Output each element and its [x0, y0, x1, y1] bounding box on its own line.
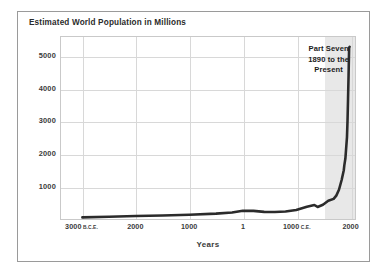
x-tick-era-suffix: B.C.E. — [81, 225, 97, 230]
annotation-line-3: Present — [308, 65, 349, 76]
x-axis-tick-label: 2000 — [127, 222, 143, 231]
x-tick-value: 1 — [241, 222, 245, 231]
x-axis-tick-label: 1 — [241, 222, 245, 231]
x-tick-value: 1000 — [283, 222, 299, 231]
chart-figure: Estimated World Population in Millions 1… — [0, 0, 392, 277]
x-tick-value: 2000 — [127, 222, 143, 231]
y-axis-tick-label: 5000 — [39, 51, 56, 60]
x-axis-tick-labels: 3000 B.C.E.2000100011000 C.E.2000 — [60, 222, 356, 236]
era-annotation: Part Seven 1890 to the Present — [308, 44, 349, 76]
plot-area: Part Seven 1890 to the Present — [60, 36, 356, 220]
x-tick-value: 3000 — [65, 222, 81, 231]
x-tick-value: 2000 — [342, 222, 358, 231]
x-axis-tick-label: 2000 — [342, 222, 358, 231]
y-axis-tick-label: 1000 — [39, 182, 56, 191]
y-axis-tick-label: 4000 — [39, 84, 56, 93]
x-tick-value: 1000 — [181, 222, 197, 231]
y-axis-tick-labels: 10002000300040005000 — [18, 36, 56, 220]
x-axis-tick-label: 3000 B.C.E. — [65, 222, 98, 231]
y-axis-tick-label: 3000 — [39, 116, 56, 125]
annotation-line-1: Part Seven — [308, 44, 349, 55]
x-axis-tick-label: 1000 C.E. — [283, 222, 311, 231]
annotation-line-2: 1890 to the — [308, 55, 349, 66]
x-tick-era-suffix: C.E. — [299, 225, 310, 230]
x-axis-label: Years — [60, 240, 356, 249]
x-axis-tick-label: 1000 — [181, 222, 197, 231]
chart-title: Estimated World Population in Millions — [29, 18, 186, 27]
y-axis-tick-label: 2000 — [39, 149, 56, 158]
